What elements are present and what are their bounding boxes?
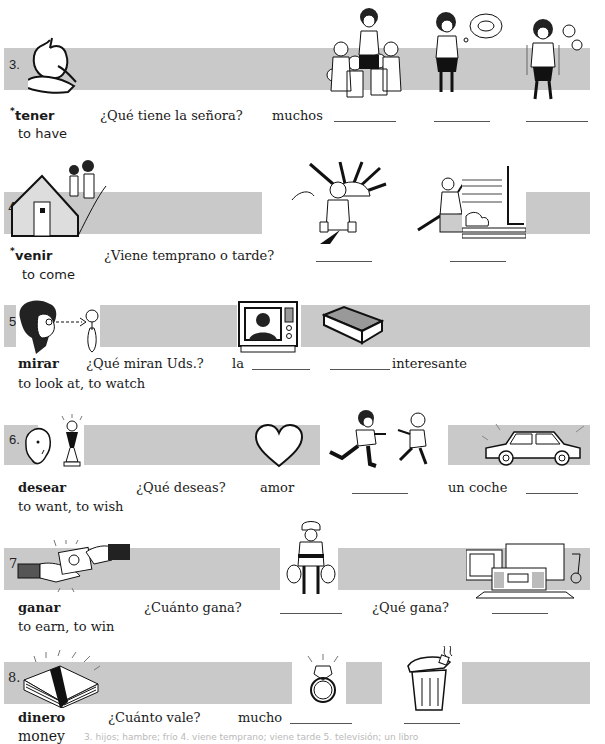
exercise-5: 5. mirar to look at, to watch ¿Qué miran… [0, 290, 605, 405]
gray-band [346, 662, 382, 704]
hungry-woman-icon [428, 8, 503, 100]
hands-exchanging-money-icon [16, 540, 132, 594]
man-with-money-bags-icon [284, 520, 338, 600]
television-icon [237, 300, 301, 355]
apple-in-hand-icon [28, 36, 80, 96]
verb-label: venir [15, 248, 52, 263]
answer-blank[interactable] [526, 121, 588, 122]
friends-greeting-icon [320, 410, 448, 472]
exercise-6: 6. desear to want, to wish ¿Qué deseas? … [0, 410, 605, 520]
verb-irregular-mark: * [10, 246, 15, 256]
answer-blank[interactable] [316, 261, 372, 262]
trash-can-icon [400, 644, 458, 714]
answer-blank[interactable] [330, 369, 390, 370]
answer-suffix: interesante [392, 356, 467, 371]
stack-of-money-icon [20, 650, 102, 708]
person-wishing-trophy-icon [22, 414, 86, 470]
question-text: ¿Qué tiene la señora? [100, 108, 243, 123]
verb-label: mirar [18, 356, 59, 371]
cold-woman-icon [525, 15, 585, 103]
answer-un-coche: un coche [448, 480, 507, 495]
answer-key-footnote: 3. hijos; hambre; frío 4. viene temprano… [84, 732, 418, 742]
question-text-2: ¿Qué gana? [372, 600, 449, 615]
answer-prefix: la [232, 356, 244, 371]
answer-blank[interactable] [252, 369, 310, 370]
question-text: ¿Cuánto gana? [144, 600, 242, 615]
question-text: ¿Cuánto vale? [108, 710, 201, 725]
item-number: 6. [9, 432, 20, 447]
exercise-8: 8. dinero money ¿Cuánto vale? mucho [0, 640, 605, 744]
exercise-3: 3. * tener to have ¿Qué tiene la señora?… [0, 0, 605, 145]
car-icon [480, 422, 590, 468]
verb-label: desear [18, 480, 66, 495]
item-number: 8. [8, 670, 20, 685]
prizes-tv-sofa-radio-icon [466, 540, 590, 600]
verb-gloss: to earn, to win [18, 619, 114, 634]
answer-blank[interactable] [334, 121, 396, 122]
verb-label: tener [15, 108, 55, 123]
answer-amor: amor [260, 480, 294, 495]
answer-blank[interactable] [290, 723, 352, 724]
item-number: 3. [9, 57, 20, 72]
answer-blank[interactable] [352, 493, 408, 494]
exercise-7: 7. ganar to earn, to win ¿Cuánto gana? ¿… [0, 520, 605, 640]
building-steps-icon [462, 164, 526, 246]
gray-band [462, 662, 590, 704]
diamond-ring-icon [300, 654, 346, 704]
verb-gloss: to look at, to watch [18, 376, 145, 391]
verb-irregular-mark: * [10, 106, 15, 116]
answer-blank[interactable] [434, 121, 490, 122]
heart-icon [254, 424, 304, 468]
question-text: ¿Viene temprano o tarde? [104, 248, 274, 263]
verb-label: ganar [18, 600, 60, 615]
book-icon [322, 305, 384, 347]
answer-blank[interactable] [526, 493, 578, 494]
answer-blank[interactable] [404, 723, 460, 724]
answer-prefix: muchos [272, 108, 323, 123]
verb-gloss: to want, to wish [18, 499, 123, 514]
question-text: ¿Qué deseas? [136, 480, 226, 495]
mother-with-children-icon [325, 5, 405, 101]
children-walking-to-house-icon [8, 156, 112, 238]
answer-blank[interactable] [280, 613, 342, 614]
exercise-4: 4. * venir to come ¿Viene temprano o tar… [0, 150, 605, 290]
verb-gloss: to come [22, 267, 75, 282]
worker-at-sunrise-icon [290, 160, 390, 246]
answer-blank[interactable] [450, 261, 506, 262]
question-text: ¿Qué miran Uds.? [86, 356, 204, 371]
verb-gloss: to have [18, 126, 67, 141]
answer-blank[interactable] [492, 613, 548, 614]
answer-prefix: mucho [238, 710, 282, 725]
verb-gloss: money [18, 728, 65, 744]
verb-label: dinero [18, 710, 65, 725]
woman-looking-at-flower-icon [16, 298, 100, 354]
man-running-late-icon [412, 164, 462, 246]
